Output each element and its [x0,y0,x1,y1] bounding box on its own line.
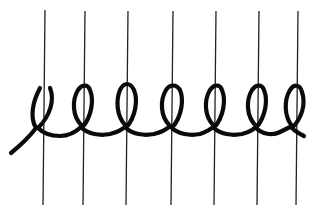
stitch-diagram: Coil/loop stitch wrapping around vertica… [0,0,312,212]
coil-stitch-illustration [0,0,312,212]
